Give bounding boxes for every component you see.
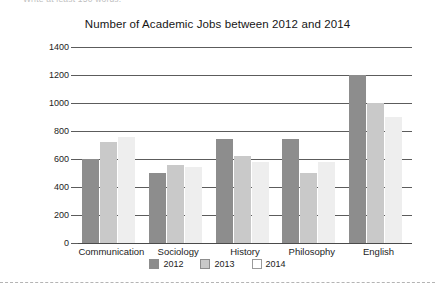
x-axis-label-communication: Communication [78, 246, 144, 257]
y-tick-0 [71, 243, 78, 244]
bar-english-2013 [367, 103, 384, 243]
chart-title: Number of Academic Jobs between 2012 and… [0, 18, 435, 30]
bar-philosophy-2013 [300, 173, 317, 243]
bar-communication-2014 [118, 137, 135, 243]
y-axis-label-400: 400 [54, 182, 69, 192]
legend-item-2012[interactable]: 2012 [149, 259, 183, 269]
y-axis-label-0: 0 [64, 238, 69, 248]
bar-chart-figure: Number of Academic Jobs between 2012 and… [0, 0, 435, 298]
y-axis-label-600: 600 [54, 154, 69, 164]
bar-group: Sociology [145, 47, 212, 243]
y-tick-1200 [71, 75, 78, 76]
legend-label-2012: 2012 [163, 259, 183, 269]
bar-stack [82, 47, 136, 243]
bar-stack [216, 47, 270, 243]
bar-group: Philosophy [278, 47, 345, 243]
y-tick-1000 [71, 103, 78, 104]
bar-history-2014 [252, 162, 269, 243]
legend-item-2013[interactable]: 2013 [200, 259, 234, 269]
bar-philosophy-2014 [318, 162, 335, 243]
bar-stack [349, 47, 403, 243]
bar-english-2012 [349, 75, 366, 243]
y-axis-label-1000: 1000 [49, 98, 69, 108]
x-axis-label-history: History [230, 246, 260, 257]
y-axis-label-1400: 1400 [49, 42, 69, 52]
bar-group: English [345, 47, 412, 243]
bar-history-2013 [234, 156, 251, 243]
legend-swatch-2012 [149, 259, 159, 269]
y-tick-800 [71, 131, 78, 132]
bar-philosophy-2012 [282, 139, 299, 243]
x-axis-label-english: English [363, 246, 394, 257]
legend-item-2014[interactable]: 2014 [252, 259, 286, 269]
y-tick-600 [71, 159, 78, 160]
bar-sociology-2012 [149, 173, 166, 243]
bar-english-2014 [385, 117, 402, 243]
bar-group: History [212, 47, 279, 243]
plot-area: 0200400600800100012001400CommunicationSo… [78, 47, 412, 243]
y-tick-1400 [71, 47, 78, 48]
gridline-0 [78, 243, 412, 244]
legend-label-2014: 2014 [266, 259, 286, 269]
legend-label-2013: 2013 [214, 259, 234, 269]
y-tick-200 [71, 215, 78, 216]
y-axis-label-800: 800 [54, 126, 69, 136]
y-tick-400 [71, 187, 78, 188]
y-axis-label-200: 200 [54, 210, 69, 220]
chart-legend: 201220132014 [0, 259, 435, 269]
bar-group: Communication [78, 47, 145, 243]
bar-communication-2013 [100, 142, 117, 243]
y-axis-label-1200: 1200 [49, 70, 69, 80]
x-axis-label-philosophy: Philosophy [289, 246, 335, 257]
legend-swatch-2013 [200, 259, 210, 269]
bar-sociology-2013 [167, 165, 184, 243]
bar-communication-2012 [82, 159, 99, 243]
bar-stack [282, 47, 336, 243]
dashed-separator [0, 282, 435, 283]
bar-history-2012 [216, 139, 233, 243]
bar-stack [149, 47, 203, 243]
bar-sociology-2014 [185, 167, 202, 243]
x-axis-label-sociology: Sociology [158, 246, 199, 257]
legend-swatch-2014 [252, 259, 262, 269]
